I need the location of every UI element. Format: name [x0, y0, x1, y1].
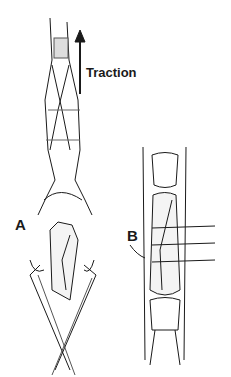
panel-a-label: A: [15, 216, 26, 233]
panel-b-drawing: [130, 147, 215, 365]
traction-label: Traction: [86, 65, 137, 80]
illustration-canvas: [0, 0, 231, 377]
panel-b-label: B: [127, 227, 138, 244]
